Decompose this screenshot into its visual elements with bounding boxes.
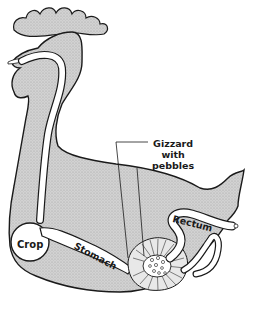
gizzard-label-line2: with (152, 149, 194, 160)
gizzard-label: Gizzard with pebbles (152, 138, 194, 171)
chicken-illustration (0, 0, 262, 319)
gizzard-label-line1: Gizzard (152, 138, 194, 149)
gizzard-label-line3: pebbles (152, 160, 194, 171)
crop-label: Crop (17, 240, 43, 250)
vent (234, 224, 238, 228)
comb-shape (14, 8, 108, 37)
diagram-stage: Gizzard with pebbles Rectum Crop Stomach (0, 0, 262, 319)
